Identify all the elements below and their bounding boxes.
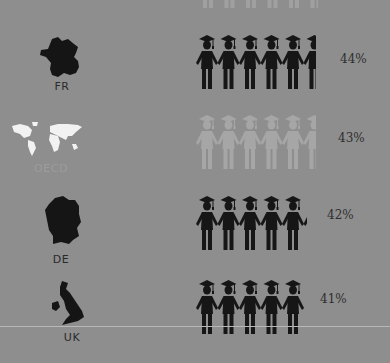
percent-de: 42% (327, 208, 354, 222)
world-map-icon (10, 122, 84, 158)
percent-uk: 41% (320, 292, 347, 306)
figure-row-de (98, 194, 307, 250)
figure-row-fr (98, 33, 316, 89)
germany-map-icon (43, 196, 83, 248)
country-label-fr: FR (42, 80, 82, 93)
figure-row-oecd (98, 113, 316, 169)
country-label-uk: UK (52, 331, 92, 344)
top-row-cutoff (98, 0, 318, 8)
france-map-icon (38, 35, 84, 81)
percent-oecd: 43% (338, 131, 365, 145)
country-label-oecd: OECD (28, 162, 74, 175)
uk-map-icon (52, 281, 86, 327)
country-label-de: DE (41, 253, 81, 266)
divider-line (0, 326, 390, 327)
percent-fr: 44% (340, 52, 367, 66)
